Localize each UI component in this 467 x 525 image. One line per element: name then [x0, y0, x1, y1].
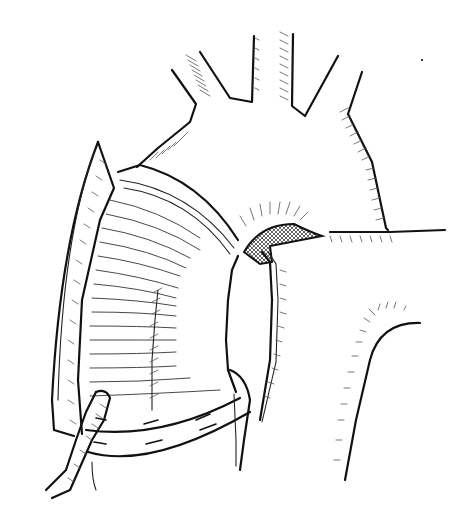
graft-body	[86, 165, 250, 490]
vessel-hatching	[150, 32, 406, 460]
aortic-arch	[137, 34, 445, 480]
drain-tube	[46, 391, 110, 498]
mesh-patch	[240, 202, 322, 264]
right-flap	[230, 252, 286, 470]
aortic-graft-illustration	[0, 0, 467, 525]
illustration-canvas	[0, 0, 467, 525]
